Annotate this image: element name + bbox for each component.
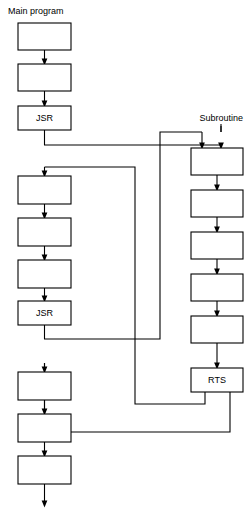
main-box-5-rect [18, 260, 71, 288]
main-box-1 [18, 23, 71, 50]
sub-box-3 [191, 232, 243, 259]
flowchart-svg: JSRJSRRTS Main program Subroutine [0, 0, 250, 511]
sub-box-3-rect [191, 232, 243, 259]
sub-box-2-rect [191, 190, 243, 217]
main-box-6-rect [18, 372, 71, 400]
main-box-1-rect [18, 23, 71, 50]
sub-box-rts: RTS [191, 368, 243, 392]
sub-box-4-rect [191, 274, 243, 301]
main-box-3-rect [18, 176, 71, 204]
main-box-6 [18, 372, 71, 400]
main-box-3 [18, 176, 71, 204]
sub-box-5 [191, 316, 243, 343]
main-box-4-rect [18, 218, 71, 246]
sub-box-2 [191, 190, 243, 217]
box-layer: JSRJSRRTS [18, 23, 243, 484]
main-box-2-rect [18, 64, 71, 91]
main-program-label: Main program [8, 6, 64, 16]
main-box-jsr-2: JSR [18, 301, 71, 325]
main-box-8 [18, 456, 71, 484]
main-box-7-rect [18, 414, 71, 442]
main-box-jsr-1-text: JSR [36, 113, 54, 123]
flowchart-canvas: JSRJSRRTS Main program Subroutine [0, 0, 250, 511]
main-box-5 [18, 260, 71, 288]
main-box-7 [18, 414, 71, 442]
sub-box-4 [191, 274, 243, 301]
main-box-jsr-2-text: JSR [36, 308, 54, 318]
main-box-jsr-1: JSR [18, 106, 71, 130]
main-box-8-rect [18, 456, 71, 484]
main-box-2 [18, 64, 71, 91]
main-box-4 [18, 218, 71, 246]
sub-box-5-rect [191, 316, 243, 343]
subroutine-label: Subroutine [199, 113, 243, 123]
sub-box-rts-text: RTS [208, 375, 226, 385]
sub-box-1 [191, 148, 243, 175]
sub-box-1-rect [191, 148, 243, 175]
